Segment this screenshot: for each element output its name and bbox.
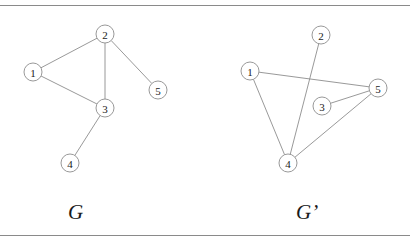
graph-node: 2 xyxy=(312,26,330,44)
node-label: 4 xyxy=(285,158,291,170)
graph-caption-g-prime: G’ xyxy=(296,200,318,225)
graph-edge xyxy=(41,38,97,68)
graph-edge xyxy=(259,72,369,87)
graph-edge xyxy=(331,91,370,104)
graph-node: 2 xyxy=(96,25,114,43)
node-label: 4 xyxy=(67,158,73,170)
graph-node: 5 xyxy=(149,81,167,99)
graph-edge xyxy=(41,76,97,104)
graph-edge xyxy=(253,79,284,154)
graph-node: 3 xyxy=(313,97,331,115)
graph-caption-g: G xyxy=(68,200,83,225)
node-label: 2 xyxy=(102,29,108,41)
graph-canvas: 1234512345 xyxy=(0,0,410,248)
node-label: 5 xyxy=(375,83,381,95)
graph-node: 5 xyxy=(369,79,387,97)
graph-node: 1 xyxy=(24,63,42,81)
graph-node: 1 xyxy=(241,62,259,80)
graph-figure: 1234512345 G G’ xyxy=(0,0,410,248)
node-label: 3 xyxy=(319,101,325,113)
graph-node: 3 xyxy=(96,99,114,117)
graph-edge xyxy=(295,94,371,157)
graph-node: 4 xyxy=(61,154,79,172)
node-label: 2 xyxy=(318,30,324,42)
node-label: 1 xyxy=(30,67,36,79)
node-label: 1 xyxy=(247,66,253,78)
graph-edge xyxy=(290,44,319,155)
graph-edge xyxy=(75,116,100,156)
node-label: 3 xyxy=(102,103,108,115)
graph-edge xyxy=(111,41,152,84)
graph-node: 4 xyxy=(279,154,297,172)
node-label: 5 xyxy=(155,85,161,97)
